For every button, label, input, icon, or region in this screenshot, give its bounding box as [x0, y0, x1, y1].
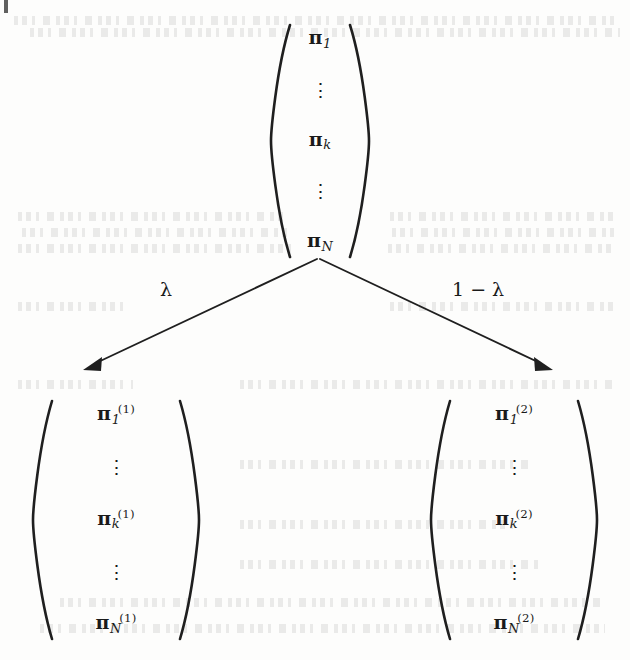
vertical-dots: ⋮	[107, 561, 126, 584]
vector-entry: πN(2)	[493, 613, 534, 636]
vector-entry: πk(2)	[495, 509, 533, 532]
vertical-dots: ⋮	[505, 456, 524, 479]
left-arrowhead-icon	[83, 357, 102, 371]
top-vector: π1 ⋮ πk ⋮ πN	[268, 22, 372, 260]
right-branch-line	[320, 259, 540, 363]
top-vector-entries: π1 ⋮ πk ⋮ πN	[294, 22, 346, 260]
ghost-text-line	[240, 380, 615, 389]
vector-entry: π1(2)	[495, 404, 533, 427]
right-branch-label: 1 − λ	[452, 280, 504, 299]
ghost-text-line	[390, 302, 615, 311]
left-paren-icon	[428, 398, 454, 642]
vector-entry: πN	[307, 231, 333, 254]
right-paren-icon	[346, 22, 372, 260]
vector-entry: πk	[309, 130, 332, 153]
right-vector-entries: π1(2) ⋮ πk(2) ⋮ πN(2)	[454, 398, 574, 642]
scan-speck	[4, 0, 8, 13]
ghost-text-line	[18, 244, 293, 253]
ghost-text-line	[390, 212, 615, 221]
vector-entry: π1	[308, 28, 331, 51]
left-paren-icon	[268, 22, 294, 260]
vertical-dots: ⋮	[505, 561, 524, 584]
left-branch-line	[96, 259, 317, 363]
vertical-dots: ⋮	[311, 79, 330, 102]
vertical-dots: ⋮	[311, 180, 330, 203]
ghost-text-line	[18, 380, 133, 389]
vertical-dots: ⋮	[107, 456, 126, 479]
vector-entry: π1(1)	[97, 404, 135, 427]
vector-entry: πk(1)	[97, 509, 135, 532]
left-vector: π1(1) ⋮ πk(1) ⋮ πN(1)	[30, 398, 202, 642]
ghost-text-line	[388, 244, 616, 253]
left-branch-label: λ	[160, 280, 172, 299]
right-vector: π1(2) ⋮ πk(2) ⋮ πN(2)	[428, 398, 600, 642]
left-vector-entries: π1(1) ⋮ πk(1) ⋮ πN(1)	[56, 398, 176, 642]
right-paren-icon	[176, 398, 202, 642]
right-paren-icon	[574, 398, 600, 642]
figure-page: π1 ⋮ πk ⋮ πN λ 1 − λ	[0, 0, 630, 660]
ghost-text-line	[22, 228, 290, 237]
ghost-text-line	[18, 212, 288, 221]
vector-entry: πN(1)	[95, 613, 136, 636]
ghost-text-line	[392, 228, 614, 237]
ghost-text-line	[18, 302, 128, 311]
left-paren-icon	[30, 398, 56, 642]
right-arrowhead-icon	[534, 357, 553, 371]
